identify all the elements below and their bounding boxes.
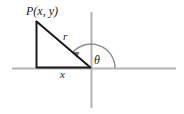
radius-label: r xyxy=(63,31,67,42)
point-label: P(x, y) xyxy=(26,5,58,17)
polar-coordinates-figure: P(x, y) r x θ xyxy=(0,0,184,114)
angle-label: θ xyxy=(94,54,100,66)
horizontal-leg-label: x xyxy=(60,69,65,80)
triangle-hypotenuse xyxy=(36,21,91,68)
